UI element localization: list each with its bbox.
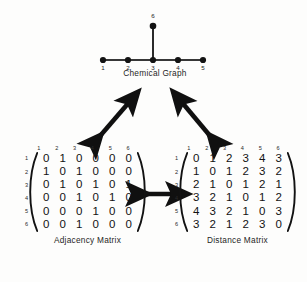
- adjacency-matrix-rows: 0 1 0 0 0 0 1 0 1 0 0 0: [38, 152, 137, 232]
- distance-cell: 1: [188, 166, 205, 178]
- adjacency-cell: 0: [88, 219, 105, 231]
- adjacency-matrix-caption: Adjacency Matrix: [18, 235, 146, 245]
- distance-cell: 2: [271, 166, 288, 178]
- adjacency-cell: 0: [104, 153, 121, 165]
- adjacency-row-label: 4: [18, 192, 29, 205]
- right-parenthesis-icon: [287, 152, 296, 232]
- adjacency-row-label: 2: [18, 166, 29, 179]
- distance-cell: 1: [254, 192, 271, 204]
- table-row: 0 0 1 0 0 0: [38, 218, 137, 231]
- table-row: 0 0 0 1 0 0: [38, 205, 137, 218]
- distance-row-label: 5: [168, 205, 179, 218]
- table-row: 0 0 1 0 1 0: [38, 192, 137, 205]
- adjacency-cell: 0: [88, 192, 105, 204]
- left-parenthesis-icon: [29, 152, 38, 232]
- distance-cell: 2: [205, 219, 222, 231]
- distance-cell: 2: [254, 179, 271, 191]
- adjacency-cell: 0: [121, 206, 138, 218]
- distance-cell: 4: [188, 206, 205, 218]
- adjacency-cell: 0: [71, 153, 88, 165]
- distance-row-labels: 1 2 3 4 5 6: [168, 152, 179, 232]
- adjacency-row-label: 3: [18, 179, 29, 192]
- table-row: 0 1 2 3 4 3: [188, 152, 287, 165]
- adjacency-cell: 0: [71, 179, 88, 191]
- adjacency-cell: 0: [38, 192, 55, 204]
- adjacency-cell: 0: [88, 166, 105, 178]
- chemical-graph-matrices-figure: 1 2 3 4 5 6 Chemical Graph 1 2 3: [0, 0, 307, 282]
- distance-cell: 2: [221, 206, 238, 218]
- adjacency-cell: 0: [121, 166, 138, 178]
- distance-cell: 4: [254, 153, 271, 165]
- table-row: 3 2 1 0 1 2: [188, 192, 287, 205]
- adjacency-cell: 1: [88, 179, 105, 191]
- distance-cell: 2: [205, 192, 222, 204]
- graph-vertex-2: [125, 57, 131, 63]
- distance-cell: 0: [188, 153, 205, 165]
- adjacency-cell: 1: [55, 153, 72, 165]
- distance-matrix-rows: 0 1 2 3 4 3 1 0 1 2 3 2: [188, 152, 287, 232]
- distance-cell: 2: [238, 219, 255, 231]
- graph-vertex-4: [175, 57, 181, 63]
- table-row: 3 2 1 2 3 0: [188, 218, 287, 231]
- adjacency-cell: 0: [55, 206, 72, 218]
- distance-cell: 1: [221, 219, 238, 231]
- distance-cell: 1: [205, 179, 222, 191]
- distance-cell: 0: [221, 179, 238, 191]
- distance-cell: 3: [238, 153, 255, 165]
- distance-row-label: 3: [168, 179, 179, 192]
- adjacency-cell: 1: [55, 179, 72, 191]
- graph-vertex-3: [150, 57, 156, 63]
- distance-cell: 2: [221, 153, 238, 165]
- distance-cell: 1: [238, 179, 255, 191]
- distance-cell: 1: [238, 206, 255, 218]
- adjacency-cell: 0: [55, 192, 72, 204]
- adjacency-row-label: 1: [18, 153, 29, 166]
- adjacency-cell: 0: [104, 166, 121, 178]
- table-row: 0 1 0 0 0 0: [38, 152, 137, 165]
- adjacency-cell: 0: [71, 206, 88, 218]
- adjacency-cell: 1: [88, 206, 105, 218]
- distance-cell: 3: [188, 192, 205, 204]
- distance-row-label: 4: [168, 192, 179, 205]
- graph-vertex-6: [150, 23, 157, 30]
- adjacency-row-labels: 1 2 3 4 5 6: [18, 152, 29, 232]
- graph-vertex-1: [100, 57, 106, 63]
- adjacency-matrix-panel: 1 2 3 4 5 6 1 2 3 4 5 6: [18, 146, 146, 245]
- table-row: 1 0 1 2 3 2: [188, 165, 287, 178]
- arrow-graph-to-distance: [180, 100, 216, 143]
- distance-cell: 1: [221, 192, 238, 204]
- distance-cell: 1: [271, 179, 288, 191]
- distance-row-label: 6: [168, 218, 179, 231]
- distance-bracket-wrap: 0 1 2 3 4 3 1 0 1 2 3 2: [179, 152, 296, 232]
- right-parenthesis-icon: [137, 152, 146, 232]
- adjacency-cell: 0: [55, 166, 72, 178]
- distance-row-label: 2: [168, 166, 179, 179]
- adjacency-cell: 0: [38, 219, 55, 231]
- distance-cell: 0: [238, 192, 255, 204]
- adjacency-cell: 1: [104, 192, 121, 204]
- table-row: 2 1 0 1 2 1: [188, 178, 287, 191]
- adjacency-cell: 0: [104, 179, 121, 191]
- adjacency-cell: 0: [121, 219, 138, 231]
- adjacency-bracket-wrap: 0 1 0 0 0 0 1 0 1 0 0 0: [29, 152, 146, 232]
- adjacency-cell: 0: [38, 153, 55, 165]
- adjacency-cell: 0: [121, 192, 138, 204]
- distance-cell: 2: [188, 179, 205, 191]
- adjacency-cell: 0: [88, 153, 105, 165]
- arrow-graph-to-adjacency: [94, 100, 131, 143]
- distance-cell: 3: [205, 206, 222, 218]
- adjacency-cell: 0: [38, 206, 55, 218]
- distance-cell: 0: [271, 219, 288, 231]
- adjacency-cell: 1: [71, 166, 88, 178]
- adjacency-cell: 0: [55, 219, 72, 231]
- table-row: 1 0 1 0 0 0: [38, 165, 137, 178]
- adjacency-cell: 1: [71, 219, 88, 231]
- distance-cell: 1: [205, 153, 222, 165]
- left-parenthesis-icon: [179, 152, 188, 232]
- adjacency-row-label: 6: [18, 218, 29, 231]
- graph-vertex-label-6: 6: [148, 13, 158, 19]
- distance-matrix-caption: Distance Matrix: [168, 235, 296, 245]
- adjacency-row-label: 5: [18, 205, 29, 218]
- distance-cell: 2: [271, 192, 288, 204]
- distance-cell: 3: [254, 166, 271, 178]
